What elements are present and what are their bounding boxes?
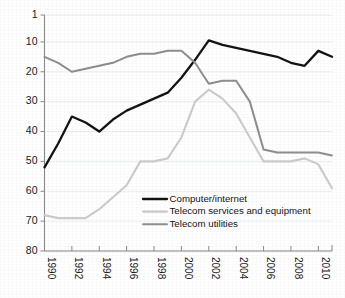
legend-label-0: Computer/internet: [170, 193, 248, 204]
series-line-2: [45, 51, 333, 156]
y-tick-label-30: 30: [26, 94, 38, 106]
y-tick-label-20: 20: [26, 65, 38, 77]
y-tick-label-60: 60: [26, 184, 38, 196]
legend-label-2: Telecom utilities: [170, 218, 239, 229]
x-tick-label-2008: 2008: [293, 257, 304, 280]
x-tick-label-1998: 1998: [156, 257, 167, 280]
series-line-0: [45, 40, 333, 167]
x-tick-label-2000: 2000: [183, 257, 194, 280]
y-tick-label-1: 1: [32, 8, 38, 20]
y-tick-label-40: 40: [26, 124, 38, 136]
x-tick-label-2004: 2004: [238, 257, 249, 280]
chart-canvas: 1102030405060708019901992199419961998200…: [0, 0, 345, 298]
x-tick-label-1996: 1996: [128, 257, 139, 280]
x-tick-label-1990: 1990: [46, 257, 57, 280]
y-tick-label-80: 80: [26, 244, 38, 256]
x-tick-label-1992: 1992: [73, 257, 84, 280]
x-tick-label-2006: 2006: [265, 257, 276, 280]
legend-label-1: Telecom services and equipment: [170, 205, 311, 216]
y-tick-label-70: 70: [26, 214, 38, 226]
y-tick-label-10: 10: [26, 35, 38, 47]
x-tick-label-1994: 1994: [101, 257, 112, 280]
x-tick-label-2010: 2010: [320, 257, 331, 280]
line-chart: 1102030405060708019901992199419961998200…: [0, 0, 345, 298]
y-tick-label-50: 50: [26, 154, 38, 166]
x-tick-label-2002: 2002: [210, 257, 221, 280]
